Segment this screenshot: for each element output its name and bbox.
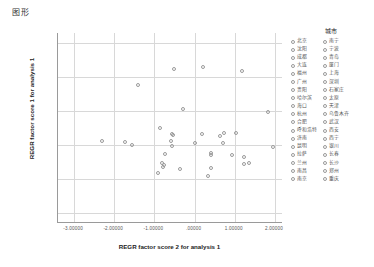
legend-item[interactable]: 宁波 xyxy=(323,46,349,53)
legend-item[interactable]: 上海 xyxy=(323,70,349,77)
data-point xyxy=(209,153,213,157)
legend-item[interactable]: 长春 xyxy=(323,151,349,158)
legend-item-label: 银川 xyxy=(329,144,339,149)
x-axis-tick-label: -3.00000 xyxy=(63,226,83,231)
gridline-vertical xyxy=(154,33,155,222)
legend-item[interactable]: 乌鲁木齐 xyxy=(323,111,349,118)
data-point xyxy=(123,140,127,144)
gridline-horizontal xyxy=(58,77,282,78)
data-point xyxy=(136,83,140,87)
legend-marker-circle-icon xyxy=(291,80,295,84)
legend-marker-circle-icon xyxy=(291,88,295,92)
legend-item[interactable]: 郑州 xyxy=(323,168,349,175)
legend-item-label: 沈阳 xyxy=(297,47,307,52)
legend-item[interactable]: 南昌 xyxy=(291,168,317,175)
legend: 城市 北京沈阳成都大连福州广州贵阳哈尔滨海口杭州合肥呼和浩特济南昆明拉萨兰州南昌… xyxy=(291,26,371,183)
x-axis-tick-label: -1.00000 xyxy=(144,226,164,231)
legend-item-label: 宁波 xyxy=(329,47,339,52)
legend-item[interactable]: 济南 xyxy=(291,135,317,142)
legend-item[interactable]: 银川 xyxy=(323,143,349,150)
legend-item[interactable]: 天津 xyxy=(323,103,349,110)
legend-marker-circle-icon xyxy=(323,56,327,60)
legend-item[interactable]: 合肥 xyxy=(291,119,317,126)
data-point xyxy=(163,152,167,156)
data-point xyxy=(169,139,173,143)
data-point xyxy=(178,167,182,171)
legend-marker-circle-icon xyxy=(323,88,327,92)
legend-item[interactable]: 大连 xyxy=(291,62,317,69)
legend-marker-circle-icon xyxy=(323,64,327,68)
legend-item[interactable]: 呼和浩特 xyxy=(291,127,317,134)
x-axis-tick-label: 1.00000 xyxy=(225,226,243,231)
legend-item[interactable]: 长沙 xyxy=(323,159,349,166)
legend-marker-circle-icon xyxy=(291,64,295,68)
legend-item[interactable]: 拉萨 xyxy=(291,151,317,158)
legend-item[interactable]: 石家庄 xyxy=(323,87,349,94)
legend-marker-circle-icon xyxy=(291,161,295,165)
x-axis-title: REGR factor score 2 for analysis 1 xyxy=(57,243,282,250)
gridline-horizontal xyxy=(58,213,282,214)
gridline-horizontal xyxy=(58,111,282,112)
data-point xyxy=(222,131,226,135)
legend-item-label: 大连 xyxy=(297,63,307,68)
legend-marker-circle-icon xyxy=(291,56,295,60)
legend-item-label: 深圳 xyxy=(329,80,339,85)
gridline-horizontal xyxy=(58,43,282,44)
legend-item-label: 合肥 xyxy=(297,120,307,125)
legend-marker-circle-icon xyxy=(291,137,295,141)
legend-item[interactable]: 西安 xyxy=(323,127,349,134)
legend-item[interactable]: 青岛 xyxy=(323,54,349,61)
legend-marker-circle-icon xyxy=(291,112,295,116)
data-point xyxy=(158,126,162,130)
legend-item[interactable]: 沈阳 xyxy=(291,46,317,53)
data-point xyxy=(206,174,210,178)
legend-item-label: 长沙 xyxy=(329,161,339,166)
legend-item-label: 天津 xyxy=(329,104,339,109)
gridline-vertical xyxy=(74,33,75,222)
legend-item[interactable]: 海口 xyxy=(291,103,317,110)
legend-item-label: 济南 xyxy=(297,136,307,141)
data-point xyxy=(130,143,134,147)
legend-marker-circle-icon xyxy=(291,72,295,76)
legend-item[interactable]: 太原 xyxy=(323,95,349,102)
legend-item-label: 呼和浩特 xyxy=(297,128,317,133)
legend-item-label: 乌鲁木齐 xyxy=(329,112,349,117)
legend-item-label: 拉萨 xyxy=(297,152,307,157)
legend-marker-circle-icon xyxy=(291,40,295,44)
data-point xyxy=(242,162,246,166)
legend-item[interactable]: 贵阳 xyxy=(291,87,317,94)
legend-marker-circle-icon xyxy=(323,112,327,116)
legend-item-label: 兰州 xyxy=(297,161,307,166)
legend-marker-circle-icon xyxy=(291,169,295,173)
legend-item[interactable]: 南宁 xyxy=(323,38,349,45)
data-point xyxy=(201,65,205,69)
legend-item[interactable]: 哈尔滨 xyxy=(291,95,317,102)
legend-item[interactable]: 武汉 xyxy=(323,119,349,126)
legend-item-label: 南宁 xyxy=(329,39,339,44)
legend-marker-circle-icon xyxy=(291,96,295,100)
legend-item-label: 太原 xyxy=(329,96,339,101)
legend-marker-circle-icon xyxy=(323,153,327,157)
gridline-vertical xyxy=(195,33,196,222)
legend-item[interactable]: 北京 xyxy=(291,38,317,45)
legend-item[interactable]: 西宁 xyxy=(323,135,349,142)
legend-item[interactable]: 成都 xyxy=(291,54,317,61)
data-point xyxy=(209,166,213,170)
legend-item[interactable]: 深圳 xyxy=(323,78,349,85)
legend-item[interactable]: 重庆 xyxy=(323,176,349,183)
legend-item[interactable]: 昆明 xyxy=(291,143,317,150)
legend-item-label: 西安 xyxy=(329,128,339,133)
legend-item-label: 海口 xyxy=(297,104,307,109)
legend-item[interactable]: 福州 xyxy=(291,70,317,77)
legend-title: 城市 xyxy=(291,26,371,35)
legend-item-label: 石家庄 xyxy=(329,88,344,93)
legend-item[interactable]: 广州 xyxy=(291,78,317,85)
legend-marker-circle-icon xyxy=(291,120,295,124)
legend-item[interactable]: 兰州 xyxy=(291,159,317,166)
legend-marker-circle-icon xyxy=(291,145,295,149)
legend-item-label: 南昌 xyxy=(297,169,307,174)
data-point xyxy=(200,132,204,136)
legend-item[interactable]: 厦门 xyxy=(323,62,349,69)
legend-item[interactable]: 南京 xyxy=(291,176,317,183)
legend-item[interactable]: 杭州 xyxy=(291,111,317,118)
